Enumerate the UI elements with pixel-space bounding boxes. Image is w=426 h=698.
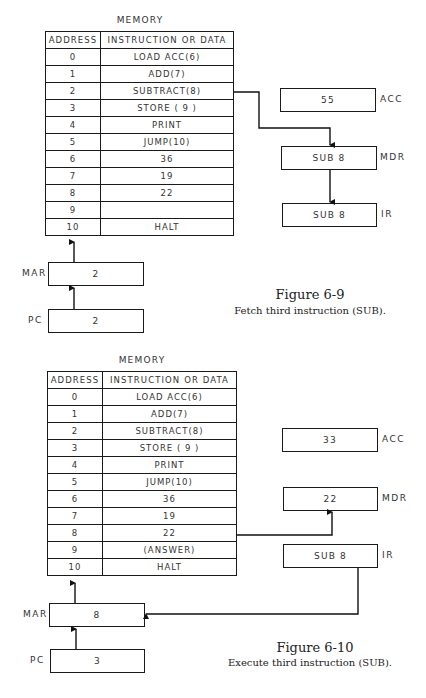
memory-to-mdr-arrow	[236, 512, 332, 535]
ir-to-mar-arrow	[146, 568, 358, 614]
memory-to-mdr-arrow	[233, 92, 330, 145]
connector-lines	[0, 0, 426, 698]
